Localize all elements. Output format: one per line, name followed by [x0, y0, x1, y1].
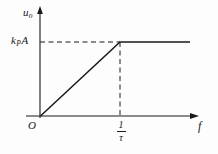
kpa-subscript: P: [16, 39, 21, 48]
chart-figure: uo kPA O f 1 τ: [0, 0, 218, 154]
fraction-denominator: τ: [113, 133, 129, 144]
data-curve: [41, 42, 191, 116]
fraction-numerator: 1: [113, 120, 129, 131]
y-tick-label-kpa: kPA: [11, 35, 28, 48]
kpa-amplitude: A: [22, 34, 29, 46]
x-axis-label: f: [198, 120, 201, 132]
y-axis-label-main: u: [23, 6, 29, 18]
y-axis-label-subscript: o: [29, 11, 33, 20]
origin-label: O: [28, 120, 36, 131]
x-tick-label-one-over-tau: 1 τ: [113, 120, 129, 143]
y-axis-arrow-icon: [37, 6, 43, 14]
y-axis-label: uo: [23, 7, 32, 20]
